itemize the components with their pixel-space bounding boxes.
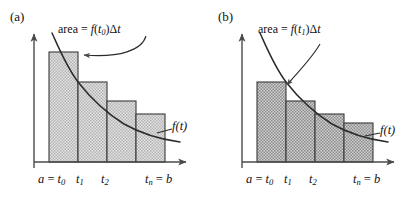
annotation-leader-a bbox=[84, 36, 146, 56]
annot-dt-b: t bbox=[317, 22, 320, 36]
panel-a-rectangles bbox=[49, 52, 165, 162]
label-b-letter: a bbox=[246, 172, 252, 186]
curve-label-b: f(t) bbox=[380, 123, 395, 138]
panel-b-rectangles bbox=[257, 82, 373, 162]
label-a-equals2: = bbox=[156, 172, 163, 186]
axis-label-b-t1: t1 bbox=[284, 173, 292, 186]
rect-bar-2 bbox=[315, 114, 344, 162]
annot-delta-a: Δ bbox=[109, 22, 117, 36]
axis-label-b-tn: tn = b bbox=[353, 173, 380, 186]
rect-bar-1 bbox=[78, 82, 107, 162]
label-b-t2-sub: 2 bbox=[312, 177, 316, 187]
label-a-tn-sub: n bbox=[148, 177, 152, 187]
label-a-t2-sub: 2 bbox=[104, 177, 108, 187]
label-b-t1-sub: 1 bbox=[287, 177, 291, 187]
label-a-equals: = bbox=[47, 172, 54, 186]
annot-dt-a: t bbox=[117, 22, 120, 36]
annotation-leader-b bbox=[287, 44, 320, 85]
axis-label-b-t2: t2 bbox=[309, 173, 317, 186]
annotation-area-a: area = f(t0)Δt bbox=[58, 23, 121, 37]
rect-bar-0 bbox=[257, 82, 286, 162]
curve-label-a: f(t) bbox=[172, 119, 187, 134]
curve-label-fn-b: f(t) bbox=[380, 123, 395, 137]
rect-bar-2 bbox=[107, 101, 136, 162]
rect-bar-3 bbox=[344, 123, 373, 162]
panel-b: (b) bbox=[208, 0, 416, 210]
label-b-tn-sub: n bbox=[356, 177, 360, 187]
axis-label-b-t0: a = t0 bbox=[246, 173, 273, 186]
axis-label-a-t2: t2 bbox=[101, 173, 109, 186]
annot-prefix-a: area bbox=[58, 22, 78, 36]
curve-label-fn-a: f(t) bbox=[172, 119, 187, 133]
rect-bar-0 bbox=[49, 52, 78, 162]
annot-delta-b: Δ bbox=[309, 22, 317, 36]
label-a-b: b bbox=[166, 172, 172, 186]
annot-equals-b: = bbox=[281, 22, 288, 36]
axis-label-a-t1: t1 bbox=[76, 173, 84, 186]
label-b-t0-sub: 0 bbox=[269, 177, 273, 187]
label-b-equals: = bbox=[255, 172, 262, 186]
label-a-letter: a bbox=[38, 172, 44, 186]
axis-label-a-t0: a = t0 bbox=[38, 173, 65, 186]
axis-label-a-tn: tn = b bbox=[145, 173, 172, 186]
panel-a: (a) bbox=[0, 0, 208, 210]
label-a-t1-sub: 1 bbox=[79, 177, 83, 187]
label-b-equals2: = bbox=[364, 172, 371, 186]
rect-bar-1 bbox=[286, 101, 315, 162]
label-b-b: b bbox=[374, 172, 380, 186]
annot-equals-a: = bbox=[81, 22, 88, 36]
label-a-t0-sub: 0 bbox=[61, 177, 65, 187]
annotation-area-b: area = f(t1)Δt bbox=[258, 23, 321, 37]
annot-prefix-b: area bbox=[258, 22, 278, 36]
figure-root: (a) bbox=[0, 0, 416, 210]
